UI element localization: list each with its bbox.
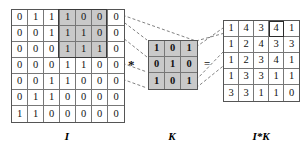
cell-K-0-0: 1 bbox=[149, 41, 165, 57]
cell-I-6-6: 0 bbox=[108, 106, 124, 122]
label-matrix-IK: I*K bbox=[238, 131, 284, 142]
cell-IK-0-4: 1 bbox=[284, 21, 299, 37]
cell-IK-4-0: 3 bbox=[224, 85, 239, 101]
cell-K-2-1: 0 bbox=[165, 73, 181, 89]
cell-I-2-4: 1 bbox=[76, 42, 92, 58]
cell-I-3-6: 0 bbox=[108, 58, 124, 74]
equals-operator: = bbox=[204, 58, 210, 69]
cell-IK-3-0: 1 bbox=[224, 69, 239, 85]
cell-I-0-5: 0 bbox=[92, 10, 108, 26]
cell-I-5-0: 0 bbox=[12, 90, 28, 106]
cell-I-4-3: 1 bbox=[60, 74, 76, 90]
cell-IK-3-4: 1 bbox=[284, 69, 299, 85]
matrix-kernel-K: 1 0 1 0 1 0 1 0 1 bbox=[148, 40, 198, 90]
cell-I-2-0: 0 bbox=[12, 42, 28, 58]
cell-IK-4-4: 0 bbox=[284, 85, 299, 101]
cell-I-4-6: 0 bbox=[108, 74, 124, 90]
cell-IK-0-0: 1 bbox=[224, 21, 239, 37]
cell-I-2-6: 0 bbox=[108, 42, 124, 58]
cell-I-3-4: 1 bbox=[76, 58, 92, 74]
cell-I-6-2: 0 bbox=[44, 106, 60, 122]
cell-IK-3-1: 3 bbox=[239, 69, 254, 85]
cell-IK-1-1: 2 bbox=[239, 37, 254, 53]
cell-I-5-1: 1 bbox=[28, 90, 44, 106]
link-kernel-to-output-upper bbox=[196, 28, 223, 47]
cell-I-2-5: 1 bbox=[92, 42, 108, 58]
label-matrix-K: K bbox=[152, 131, 192, 142]
cell-I-6-1: 1 bbox=[28, 106, 44, 122]
cell-I-4-1: 0 bbox=[28, 74, 44, 90]
cell-IK-3-2: 3 bbox=[254, 69, 269, 85]
cell-I-2-3: 1 bbox=[60, 42, 76, 58]
cell-I-0-3: 1 bbox=[60, 10, 76, 26]
cell-I-6-0: 1 bbox=[12, 106, 28, 122]
cell-I-5-2: 1 bbox=[44, 90, 60, 106]
cell-I-3-3: 1 bbox=[60, 58, 76, 74]
cell-K-2-2: 1 bbox=[181, 73, 197, 89]
cell-IK-1-3: 3 bbox=[269, 37, 284, 53]
cell-IK-0-2: 3 bbox=[254, 21, 269, 37]
cell-I-0-6: 0 bbox=[108, 10, 124, 26]
cell-IK-2-0: 1 bbox=[224, 53, 239, 69]
cell-IK-3-3: 1 bbox=[269, 69, 284, 85]
cell-I-2-1: 0 bbox=[28, 42, 44, 58]
cell-I-6-3: 0 bbox=[60, 106, 76, 122]
cell-I-2-2: 0 bbox=[44, 42, 60, 58]
cell-I-5-5: 0 bbox=[92, 90, 108, 106]
matrix-output-IK: 1 4 3 4 1 1 2 4 3 3 1 2 3 4 1 1 3 3 1 1 … bbox=[223, 20, 300, 102]
cell-I-1-1: 0 bbox=[28, 26, 44, 42]
cell-K-0-2: 1 bbox=[181, 41, 197, 57]
cell-I-6-5: 0 bbox=[92, 106, 108, 122]
cell-I-1-3: 1 bbox=[60, 26, 76, 42]
matrix-input-I: 0 1 1 1 0 0 0 0 0 1 1 1 0 0 0 0 0 1 1 1 … bbox=[11, 9, 125, 123]
cell-IK-0-3: 4 bbox=[269, 21, 284, 37]
cell-K-0-1: 0 bbox=[165, 41, 181, 57]
cell-IK-2-1: 2 bbox=[239, 53, 254, 69]
cell-I-3-2: 0 bbox=[44, 58, 60, 74]
convolution-figure: 0 1 1 1 0 0 0 0 0 1 1 1 0 0 0 0 0 1 1 1 … bbox=[0, 0, 300, 155]
cell-I-1-6: 0 bbox=[108, 26, 124, 42]
cell-I-1-0: 0 bbox=[12, 26, 28, 42]
cell-IK-4-3: 1 bbox=[269, 85, 284, 101]
cell-I-4-0: 0 bbox=[12, 74, 28, 90]
cell-IK-0-1: 4 bbox=[239, 21, 254, 37]
cell-K-2-0: 1 bbox=[149, 73, 165, 89]
cell-I-5-3: 0 bbox=[60, 90, 76, 106]
cell-K-1-1: 1 bbox=[165, 57, 181, 73]
cell-I-4-5: 0 bbox=[92, 74, 108, 90]
cell-I-4-4: 0 bbox=[76, 74, 92, 90]
cell-I-0-1: 1 bbox=[28, 10, 44, 26]
cell-IK-2-2: 3 bbox=[254, 53, 269, 69]
convolution-operator: * bbox=[128, 58, 135, 71]
cell-I-0-0: 0 bbox=[12, 10, 28, 26]
cell-IK-1-0: 1 bbox=[224, 37, 239, 53]
cell-IK-1-4: 3 bbox=[284, 37, 299, 53]
cell-K-1-2: 0 bbox=[181, 57, 197, 73]
cell-I-3-1: 0 bbox=[28, 58, 44, 74]
label-matrix-I: I bbox=[47, 131, 87, 142]
cell-IK-2-4: 1 bbox=[284, 53, 299, 69]
cell-I-1-4: 1 bbox=[76, 26, 92, 42]
cell-IK-2-3: 4 bbox=[269, 53, 284, 69]
cell-IK-4-2: 1 bbox=[254, 85, 269, 101]
cell-K-1-0: 0 bbox=[149, 57, 165, 73]
cell-I-6-4: 0 bbox=[76, 106, 92, 122]
cell-I-4-2: 1 bbox=[44, 74, 60, 90]
cell-I-0-2: 1 bbox=[44, 10, 60, 26]
cell-I-0-4: 0 bbox=[76, 10, 92, 26]
cell-IK-1-2: 4 bbox=[254, 37, 269, 53]
cell-I-3-5: 0 bbox=[92, 58, 108, 74]
cell-I-3-0: 0 bbox=[12, 58, 28, 74]
cell-I-1-2: 1 bbox=[44, 26, 60, 42]
cell-I-1-5: 0 bbox=[92, 26, 108, 42]
cell-I-5-6: 0 bbox=[108, 90, 124, 106]
cell-IK-4-1: 3 bbox=[239, 85, 254, 101]
cell-I-5-4: 0 bbox=[76, 90, 92, 106]
